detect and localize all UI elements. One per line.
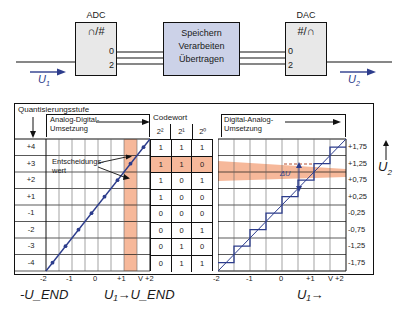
codeword-bit: 0 — [151, 256, 171, 273]
codeword-bit: 0 — [151, 239, 171, 255]
codeword-header: Codewort — [153, 114, 187, 122]
processing-line-2: Verarbeiten — [163, 42, 240, 51]
decision-value-annotation-line-2: wert — [52, 167, 66, 175]
dac-title: DAC — [285, 11, 327, 20]
table-row[interactable]: 1 1 0 — [151, 157, 212, 174]
output-voltage-subscript: 2 — [356, 80, 360, 87]
adc-ytick: +4 — [16, 139, 46, 156]
dac-ytick: -1,25 — [348, 238, 378, 255]
dac-x-axis-title: U₁→ — [297, 288, 324, 301]
adc-ytick: -4 — [16, 255, 46, 272]
adc-xtick: 0 — [93, 275, 97, 283]
delta-u-label: ΔU — [280, 170, 290, 178]
table-row[interactable]: 0 0 1 — [151, 223, 212, 240]
dac-conversion-title-line-1: Digital-Analog- — [224, 116, 273, 124]
codeword-bit: 0 — [171, 223, 192, 239]
decision-value-annotation-line-1: Entscheidungs- — [52, 158, 104, 166]
dac-xtick: -1 — [246, 275, 253, 283]
dac-xtick: +1 — [306, 275, 315, 283]
table-row[interactable]: 0 1 1 — [151, 256, 212, 273]
dac-conversion-title-line-2: Umsetzung — [224, 125, 262, 133]
dac-xtick: 0 — [279, 275, 283, 283]
table-row[interactable]: 1 0 1 — [151, 173, 212, 190]
codeword-bit: 1 — [151, 157, 171, 173]
codeword-col-header: 2² — [150, 124, 170, 139]
codeword-bit: 0 — [171, 190, 192, 206]
table-row[interactable]: 0 0 0 — [151, 206, 212, 223]
input-voltage-subscript: 1 — [46, 80, 50, 87]
processing-line-3: Übertragen — [163, 55, 240, 64]
quantization-step-label: Quantisierungsstufe — [18, 106, 89, 114]
dac-y-axis-title: U2 — [378, 160, 392, 177]
dac-xtick: V +2 — [328, 275, 344, 283]
adc-xtick: -2 — [40, 275, 47, 283]
codeword-bit: 1 — [151, 140, 171, 156]
dac-ytick: -0,25 — [348, 205, 378, 222]
codeword-bit: 0 — [171, 173, 192, 189]
table-row[interactable]: 0 1 0 — [151, 239, 212, 256]
codeword-bit: 0 — [191, 157, 212, 173]
dac-ytick: -1,75 — [348, 255, 378, 272]
codeword-col-header: 2⁰ — [192, 124, 213, 139]
codeword-bit: 0 — [191, 190, 212, 206]
adc-ytick: +1 — [16, 189, 46, 206]
adc-title: ADC — [75, 11, 117, 20]
dac-conversion-arrow-icon — [285, 118, 343, 126]
dac-y-axis-arrow-icon — [381, 140, 391, 160]
adc-conversion-title-line-1: Analog-Digital- — [50, 116, 99, 124]
block-diagram: ADC ∩/# 0 2 Speichern Verarbeiten Übertr… — [0, 0, 401, 100]
output-voltage-symbol: U — [348, 73, 356, 85]
codeword-bit: 1 — [171, 239, 192, 255]
adc-xtick: V +2 — [138, 275, 154, 283]
table-row[interactable]: 1 0 0 — [151, 190, 212, 207]
figure-root: ADC ∩/# 0 2 Speichern Verarbeiten Übertr… — [0, 0, 401, 315]
dac-transfer-chart — [218, 137, 353, 273]
adc-pin-2: 2 — [102, 61, 114, 70]
dac-ytick: -0,75 — [348, 222, 378, 239]
quantization-arrow-icon — [28, 117, 38, 139]
adc-conversion-arrow-icon — [96, 118, 152, 126]
adc-ytick: +3 — [16, 156, 46, 173]
adc-pin-0: 0 — [102, 47, 114, 56]
dac-y-axis-subscript: 2 — [387, 168, 391, 177]
codeword-bit: 1 — [171, 140, 192, 156]
dac-xtick: -2 — [213, 275, 220, 283]
adc-x-axis-title: U₁→U_END — [104, 288, 175, 301]
output-voltage-label: U2 — [348, 74, 360, 87]
codeword-bit: 1 — [171, 157, 192, 173]
codeword-bit: 0 — [151, 206, 171, 222]
codeword-bit: 1 — [191, 223, 212, 239]
adc-ytick: -2 — [16, 222, 46, 239]
codeword-bit: 1 — [191, 140, 212, 156]
dac-pin-2: 2 — [288, 61, 300, 70]
adc-xtick: -1 — [66, 275, 73, 283]
input-voltage-label: U1 — [38, 74, 50, 87]
adc-y-axis-labels: +4 +3 +2 +1 -1 -2 -3 -4 — [16, 139, 46, 271]
codeword-bit: 1 — [151, 190, 171, 206]
adc-x-axis-title-left: -U_END — [20, 288, 68, 301]
codeword-bit: 0 — [191, 239, 212, 255]
codeword-column-headers: 2² 2¹ 2⁰ — [150, 124, 213, 139]
codeword-bit: 1 — [191, 173, 212, 189]
adc-ytick: +2 — [16, 172, 46, 189]
codeword-table: 2² 2¹ 2⁰ 1 1 1 1 1 0 1 0 1 1 0 — [150, 124, 213, 273]
dac-y-axis-symbol: U — [378, 159, 387, 174]
codeword-rows: 1 1 1 1 1 0 1 0 1 1 0 0 0 0 0 — [150, 139, 213, 271]
codeword-bit: 0 — [151, 223, 171, 239]
codeword-bit: 1 — [191, 256, 212, 273]
adc-symbol: ∩/# — [75, 26, 117, 37]
codeword-bit: 1 — [151, 173, 171, 189]
dac-ytick: +1,25 — [348, 156, 378, 173]
dac-ytick: +0,25 — [348, 189, 378, 206]
codeword-bit: 0 — [191, 206, 212, 222]
dac-symbol: #/∩ — [285, 26, 327, 37]
adc-xtick: +1 — [117, 275, 126, 283]
adc-ytick: -3 — [16, 238, 46, 255]
codeword-bit: 0 — [171, 206, 192, 222]
table-row[interactable]: 1 1 1 — [151, 140, 212, 157]
dac-ytick: +0,75 — [348, 172, 378, 189]
dac-ytick: +1,75 — [348, 139, 378, 156]
codeword-col-header: 2¹ — [170, 124, 191, 139]
dac-pin-0: 0 — [288, 47, 300, 56]
codeword-bit: 1 — [171, 256, 192, 273]
